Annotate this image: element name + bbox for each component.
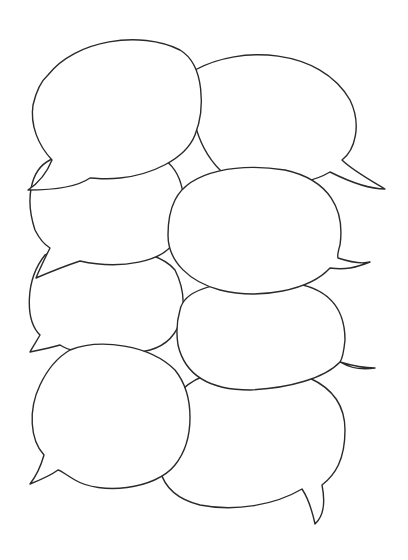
speech-bubble-bottom-left [30, 344, 190, 488]
speech-bubbles-illustration [0, 0, 408, 560]
